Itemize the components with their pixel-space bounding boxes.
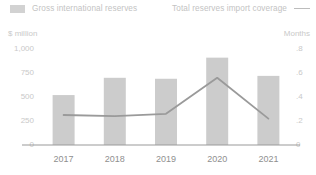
x-label-2021: 2021 [258,154,278,164]
x-axis-tick-labels: 20172018201920202021 [0,150,316,172]
x-label-2019: 2019 [156,154,176,164]
x-label-2020: 2020 [207,154,227,164]
right-axis-title: Months [284,29,310,38]
chart-legend: Gross international reserves Total reser… [0,0,316,22]
legend-item-total-reserves-import-coverage[interactable]: Total reserves import coverage [172,4,310,13]
bar-2021 [257,76,279,145]
left-axis-title: $ million [8,29,37,38]
plot-area [0,40,316,158]
bar-2019 [155,79,177,145]
bar-2020 [206,58,228,145]
bar-2018 [104,78,126,145]
bar-swatch-icon [10,5,25,13]
legend-label-line-series: Total reserves import coverage [172,4,287,13]
bar-2017 [53,95,75,145]
plot-svg [0,40,316,158]
legend-item-gross-international-reserves[interactable]: Gross international reserves [10,4,137,13]
line-swatch-icon [294,8,310,9]
x-label-2017: 2017 [54,154,74,164]
legend-label-bar-series: Gross international reserves [32,4,137,13]
x-label-2018: 2018 [105,154,125,164]
chart-container: Gross international reserves Total reser… [0,0,316,175]
